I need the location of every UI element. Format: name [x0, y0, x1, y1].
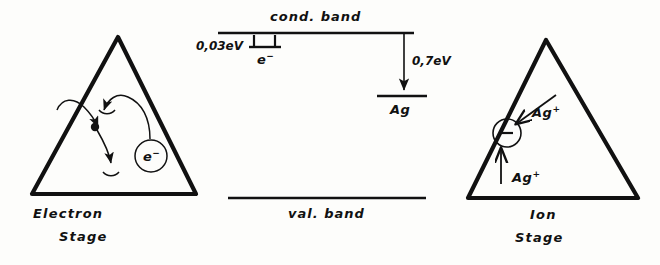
sensitivity-speck-dot: [91, 123, 99, 131]
silver-gap-energy-label: 0,7eV: [412, 55, 451, 67]
donor-level-label: e−: [257, 52, 274, 66]
conduction-band-label: cond. band: [270, 10, 361, 23]
trapped-electron-arrow: [97, 130, 111, 163]
ion-stage-caption-line1: Ion: [530, 208, 557, 221]
electron-charge-sign: −: [152, 148, 160, 158]
electron-stage-triangle: [32, 37, 196, 194]
silver-ion-label-upper: Ag+: [532, 105, 560, 119]
electron-stage-caption-line1: Electron: [33, 207, 103, 220]
donor-gap-energy-label: 0,03eV: [196, 40, 243, 52]
electron-migration-arrow: [104, 95, 150, 139]
electron-stage-panel: [32, 37, 196, 194]
lower-cup-mark: [103, 172, 119, 176]
electron-stage-caption-line2: Stage: [59, 230, 107, 243]
diagram-canvas: [0, 0, 660, 265]
silver-ion-label-lower: Ag+: [512, 170, 540, 184]
silver-ion-charge-lower: +: [532, 169, 540, 179]
valence-band-label: val. band: [288, 207, 365, 220]
upper-cup-mark: [99, 110, 115, 114]
silver-ion-charge-upper: +: [552, 104, 560, 114]
electron-particle-label: e−: [143, 149, 160, 163]
donor-level-charge-sign: −: [266, 51, 274, 61]
silver-level-label: Ag: [390, 103, 410, 116]
ion-stage-caption-line2: Stage: [515, 231, 563, 244]
